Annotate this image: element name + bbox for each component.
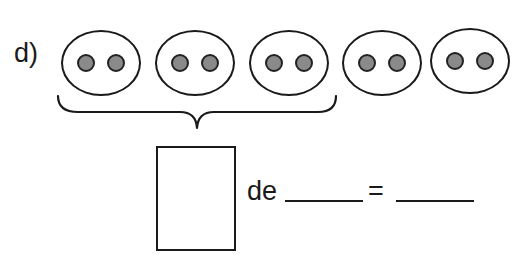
connector-word: de	[247, 176, 277, 206]
curly-brace-icon	[0, 0, 517, 268]
answer-blank-1[interactable]	[285, 200, 363, 202]
answer-blank-2[interactable]	[396, 200, 474, 202]
equals-sign: =	[368, 176, 384, 206]
fraction-answer-box[interactable]	[156, 146, 236, 251]
